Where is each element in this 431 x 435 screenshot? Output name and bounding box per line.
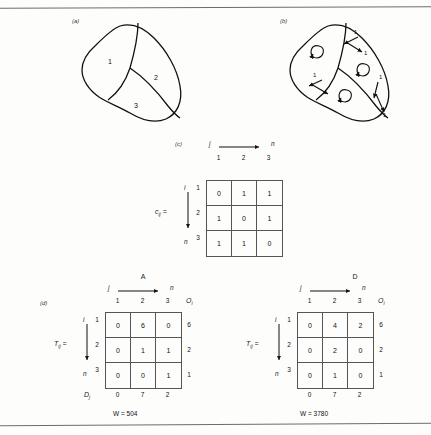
matrix-d-rowtotal-1: 6 [375,321,387,328]
matrix-a-row-axis-to: n [83,370,87,377]
matrix-c-cell-r1c3: 1 [257,181,282,206]
matrix-a-w-label: W = 504 [113,410,137,417]
matrix-a-grid: 0 6 0 0 1 1 0 0 1 [105,312,182,389]
matrix-a-cell-r2c3: 1 [156,338,181,363]
matrix-c-grid: 0 1 1 1 0 1 1 1 0 [206,180,283,257]
matrix-c-row-arrow [184,192,192,236]
matrix-a-equals: = [62,340,66,347]
matrix-d-grid: 0 4 2 0 2 0 0 1 0 [297,312,374,389]
matrix-c-col-axis-from: j [209,140,210,147]
matrix-a-row-tick-1: 1 [92,316,102,323]
matrix-c-col-arrow [219,143,267,151]
matrix-a-row-tick-3: 3 [92,366,102,373]
matrix-c-cell-r3c2: 1 [232,231,257,256]
matrix-a-col-tick-3: 3 [155,297,180,304]
matrix-d-o-header-sub: i [383,300,384,306]
matrix-c-cell-r2c1: 1 [207,206,232,231]
flow-label-5: 1 [383,112,386,118]
matrix-a-row-tick-2: 2 [92,341,102,348]
matrix-c-row-axis-from: i [184,184,185,191]
panel-a-diagram: 1 2 3 [78,20,188,128]
matrix-d-cell-r1c3: 2 [348,313,373,338]
flow-label-1: 1 [354,29,357,35]
matrix-d-col-tick-1: 1 [297,297,322,304]
matrix-a-row-arrow [83,324,91,368]
flow-label-3: 1 [313,72,316,78]
matrix-c-col-tick-2: 2 [231,154,256,161]
matrix-d-cell-r3c2: 1 [323,363,348,388]
matrix-c-cell-r3c1: 1 [207,231,232,256]
matrix-a-cell-r3c3: 1 [156,363,181,388]
matrix-c-row-axis-to: n [184,238,188,245]
matrix-d-name: Tij = [246,340,259,349]
matrix-c-row-tick-3: 3 [193,234,203,241]
matrix-d-title: D [330,273,380,280]
region-label-3: 3 [134,102,138,109]
matrix-a-col-tick-1: 1 [105,297,130,304]
matrix-c-equals: = [163,208,167,215]
matrix-c-cell-r2c2: 0 [232,206,257,231]
matrix-a-o-header: Oi [186,297,193,306]
matrix-a-rowtotal-3: 1 [183,371,195,378]
matrix-a-cell-r2c1: 0 [106,338,131,363]
matrix-c-cell-r2c3: 1 [257,206,282,231]
matrix-d-o-header: Oi [378,297,385,306]
matrix-d-col-tick-2: 2 [322,297,347,304]
region-label-2: 2 [154,74,158,81]
matrix-d-cell-r1c1: 0 [298,313,323,338]
matrix-d-row-tick-1: 1 [284,316,294,323]
matrix-c-name: cij = [155,208,167,217]
matrix-a-d-header-sub: j [89,394,90,400]
matrix-c-cell-r1c1: 0 [207,181,232,206]
matrix-a-o-header-sub: i [191,300,192,306]
matrix-a-rowtotal-2: 2 [183,346,195,353]
matrix-c-cell-r3c3: 0 [257,231,282,256]
matrix-a-coltotal-2: 7 [130,391,155,398]
matrix-a-col-arrow [118,287,166,295]
matrix-d-cell-r2c2: 2 [323,338,348,363]
matrix-a-cell-r3c1: 0 [106,363,131,388]
matrix-d-cell-r3c3: 0 [348,363,373,388]
page-rule-top [0,6,431,8]
matrix-a-coltotal-1: 0 [105,391,130,398]
matrix-d-cell-r2c3: 0 [348,338,373,363]
flow-label-4: 1 [379,74,382,80]
matrix-d-coltotal-3: 2 [347,391,372,398]
matrix-d-row-axis-from: i [275,316,276,323]
panel-d-label: (d) [40,300,47,306]
matrix-a-col-axis-to: n [170,284,174,291]
matrix-c-col-tick-3: 3 [256,154,281,161]
matrix-d-cell-r1c2: 4 [323,313,348,338]
matrix-d-coltotal-1: 0 [297,391,322,398]
matrix-a-col-tick-2: 2 [130,297,155,304]
matrix-d-cell-r3c1: 0 [298,363,323,388]
matrix-d-col-axis-from: j [300,284,301,291]
matrix-a-cell-r1c2: 6 [131,313,156,338]
matrix-c-row-tick-1: 1 [193,184,203,191]
flow-label-2: 1 [364,50,367,56]
matrix-d-cell-r2c1: 0 [298,338,323,363]
page-rule-bottom [0,423,431,427]
matrix-a-col-axis-from: j [108,284,109,291]
matrix-d-coltotal-2: 7 [322,391,347,398]
matrix-d-col-arrow [310,287,358,295]
matrix-a-cell-r1c3: 0 [156,313,181,338]
matrix-a-title: A [118,273,168,280]
matrix-d-rowtotal-3: 1 [375,371,387,378]
matrix-d-name-sub: ij [250,343,252,349]
matrix-a-name: Tij = [54,340,67,349]
matrix-d-row-tick-3: 3 [284,366,294,373]
matrix-a-cell-r1c1: 0 [106,313,131,338]
matrix-c-cell-r1c2: 1 [232,181,257,206]
matrix-a-row-axis-from: i [83,316,84,323]
matrix-a-cell-r3c2: 0 [131,363,156,388]
matrix-d-col-axis-to: n [362,284,366,291]
panel-c-label: (c) [175,141,182,147]
matrix-a-coltotal-3: 2 [155,391,180,398]
matrix-d-row-arrow [275,324,283,368]
matrix-d-w-label: W = 3780 [300,410,328,417]
panel-b-diagram: 1 1 1 1 1 [286,20,398,128]
matrix-c-row-tick-2: 2 [193,209,203,216]
matrix-a-cell-r2c2: 1 [131,338,156,363]
matrix-a-name-sub: ij [58,343,60,349]
